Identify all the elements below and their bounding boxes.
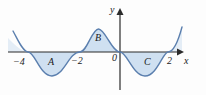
region-label-c: C <box>144 57 151 67</box>
origin-tick-label: 0 <box>112 53 117 63</box>
shaded-tail-right <box>168 28 182 52</box>
region-label-b: B <box>95 33 101 43</box>
y-axis-label: y <box>110 5 114 15</box>
plot-canvas <box>0 0 206 95</box>
region-label-a: A <box>48 57 54 67</box>
x-axis-label: x <box>184 56 188 66</box>
sine-curve-signed-area-figure: y x 0 −4 −2 2 A B C <box>0 0 206 95</box>
x-tick-label-2: 2 <box>167 56 172 66</box>
x-tick-label-minus2: −2 <box>71 56 83 66</box>
x-tick-label-minus4: −4 <box>13 57 25 67</box>
